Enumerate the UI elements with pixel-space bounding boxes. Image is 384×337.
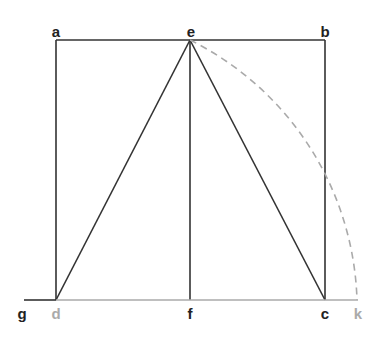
label-c: c: [321, 306, 329, 321]
label-d: d: [51, 306, 60, 321]
line-ec: [190, 40, 325, 300]
arc-ek: [190, 40, 357, 300]
label-a: a: [52, 24, 60, 39]
golden-rectangle-diagram: a e b g d f c k: [0, 0, 384, 337]
diagram-lines: [0, 0, 384, 337]
label-e: e: [187, 24, 195, 39]
label-b: b: [320, 24, 329, 39]
label-f: f: [188, 306, 193, 321]
label-k: k: [354, 306, 362, 321]
label-g: g: [17, 306, 26, 321]
line-ed: [56, 40, 190, 300]
